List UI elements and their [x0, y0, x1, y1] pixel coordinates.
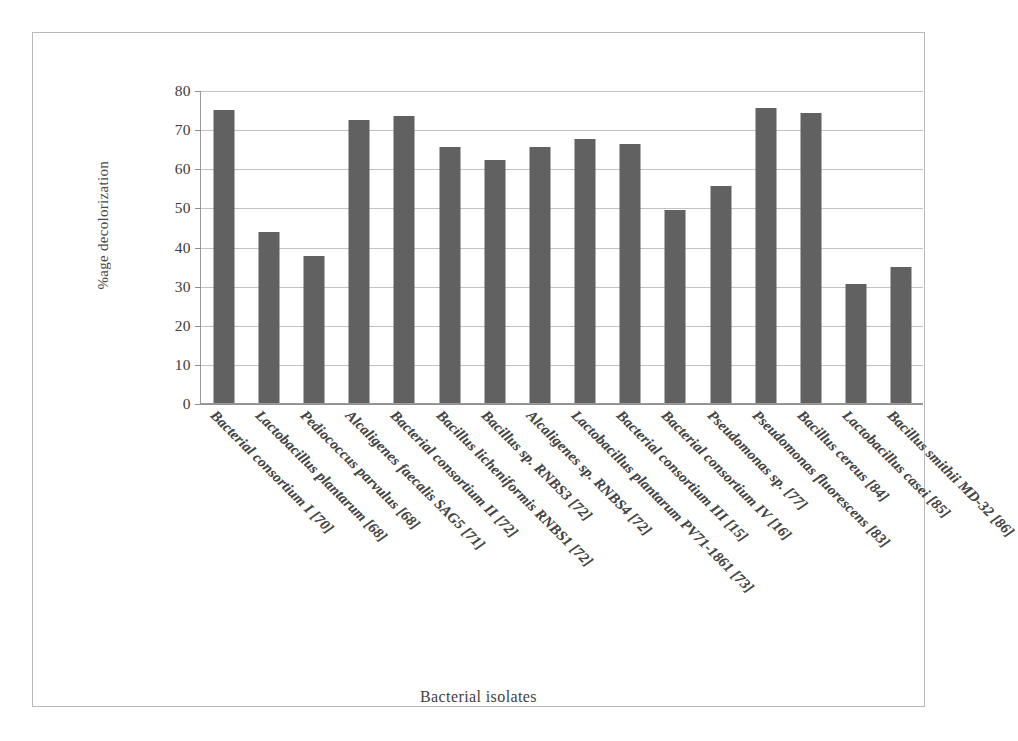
- y-tick-mark-0: [195, 404, 201, 405]
- bar[interactable]: [213, 110, 234, 403]
- bar-slot: [472, 91, 517, 403]
- bar[interactable]: [620, 144, 641, 403]
- y-tick-label-60: 60: [175, 160, 191, 178]
- bar-slot: [291, 91, 336, 403]
- bar-slot: [246, 91, 291, 403]
- y-tick-label-20: 20: [175, 317, 191, 335]
- bar[interactable]: [529, 147, 550, 403]
- bar[interactable]: [439, 147, 460, 403]
- bar-slot: [517, 91, 562, 403]
- bar-slot: [834, 91, 879, 403]
- bar-slot: [879, 91, 924, 403]
- y-tick-label-0: 0: [183, 395, 191, 413]
- bar[interactable]: [575, 139, 596, 403]
- y-axis-title: %age decolorization: [95, 161, 119, 290]
- bar[interactable]: [755, 108, 776, 403]
- bar-slot: [653, 91, 698, 403]
- bars-layer: [201, 91, 923, 403]
- y-tick-label-80: 80: [175, 82, 191, 100]
- y-tick-label-50: 50: [175, 199, 191, 217]
- bar-slot: [382, 91, 427, 403]
- bar[interactable]: [801, 113, 822, 403]
- gridline-0: [201, 404, 923, 405]
- y-tick-label-10: 10: [175, 356, 191, 374]
- x-axis-title: Bacterial isolates: [33, 688, 924, 706]
- bar[interactable]: [394, 116, 415, 403]
- bar-slot: [563, 91, 608, 403]
- bar[interactable]: [891, 267, 912, 403]
- plot-area: 01020304050607080: [200, 91, 923, 404]
- bar-slot: [698, 91, 743, 403]
- bar[interactable]: [665, 210, 686, 403]
- y-tick-label-40: 40: [175, 239, 191, 257]
- bar-slot: [337, 91, 382, 403]
- bar-slot: [608, 91, 653, 403]
- bar[interactable]: [303, 256, 324, 404]
- bar-slot: [201, 91, 246, 403]
- bar-slot: [743, 91, 788, 403]
- bar[interactable]: [846, 284, 867, 403]
- bar-slot: [788, 91, 833, 403]
- bar[interactable]: [710, 186, 731, 403]
- y-tick-label-30: 30: [175, 278, 191, 296]
- y-tick-label-70: 70: [175, 121, 191, 139]
- bar[interactable]: [258, 232, 279, 403]
- bar[interactable]: [349, 120, 370, 403]
- x-axis-category-labels: Bacterial consortium I [70]Lactobacillus…: [200, 407, 923, 677]
- bar-slot: [427, 91, 472, 403]
- figure-frame: %age decolorization 01020304050607080 Ba…: [32, 32, 925, 707]
- bar[interactable]: [484, 160, 505, 403]
